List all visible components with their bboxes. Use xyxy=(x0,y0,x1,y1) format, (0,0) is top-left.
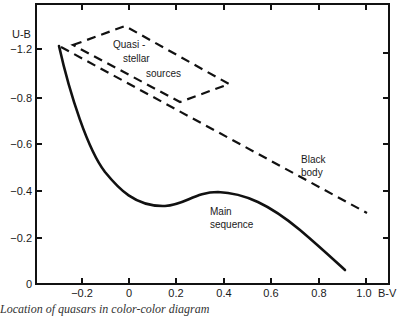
y-tick-label: −0.6 xyxy=(2,138,32,150)
y-tick-label: −0.2 xyxy=(2,232,32,244)
y-tick-label: 0 xyxy=(2,278,32,290)
x-tick-label: 1.0 xyxy=(344,287,384,299)
x-tick-label: −0.2 xyxy=(62,287,102,299)
black-body-label-line2: body xyxy=(301,167,323,179)
black-body-line xyxy=(61,47,367,213)
y-tick-label: −1.2 xyxy=(2,43,32,55)
main-sequence-label-line1: Main xyxy=(210,206,232,218)
main-sequence-label-line2: sequence xyxy=(210,219,253,231)
x-tick-label: 0.6 xyxy=(251,287,291,299)
x-tick-label: 0.2 xyxy=(156,287,196,299)
quasi-stellar-region xyxy=(73,26,229,102)
qso-label-line3: sources xyxy=(146,68,181,80)
qso-label-line2: stellar xyxy=(123,53,150,65)
x-tick-label: 0.4 xyxy=(204,287,244,299)
figure-caption: Location of quasars in color-color diagr… xyxy=(0,302,209,317)
x-tick-label: 0.8 xyxy=(299,287,339,299)
x-tick-label: 0 xyxy=(109,287,149,299)
y-tick-label: −0.8 xyxy=(2,92,32,104)
qso-label-line1: Quasi - xyxy=(113,39,145,51)
black-body-label-line1: Black xyxy=(301,154,325,166)
y-tick-label: −0.4 xyxy=(2,185,32,197)
y-axis-label: U-B xyxy=(12,28,31,40)
